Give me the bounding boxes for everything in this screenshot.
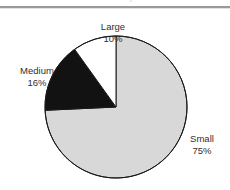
- pie-label-medium: Medium 16%: [6, 65, 68, 89]
- clipped-header-text: Distribution by size: [0, 0, 230, 2]
- pie-chart: Large 10% Medium 16% Small 75%: [0, 9, 230, 190]
- pie-label-small: Small 75%: [176, 133, 228, 157]
- pie-label-small-name: Small: [176, 133, 228, 145]
- pie-label-medium-value: 16%: [6, 77, 68, 89]
- pie-label-small-value: 75%: [176, 145, 228, 157]
- pie-label-large: Large 10%: [78, 21, 148, 45]
- pie-label-medium-name: Medium: [6, 65, 68, 77]
- pie-label-large-name: Large: [78, 21, 148, 33]
- pie-label-large-value: 10%: [78, 33, 148, 45]
